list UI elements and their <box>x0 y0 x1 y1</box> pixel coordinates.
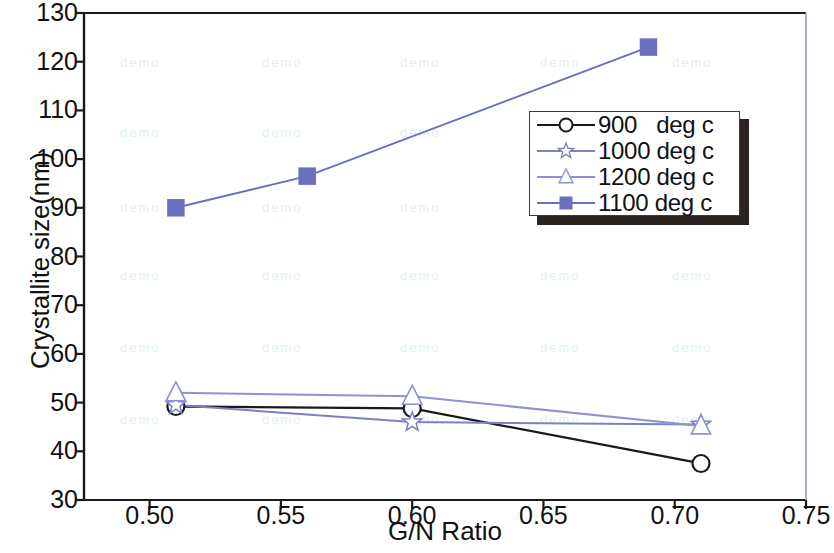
legend-label: 900 deg c <box>598 113 713 137</box>
legend-marker-icon <box>535 165 597 189</box>
series-line <box>176 393 701 426</box>
legend-label: 1200 deg c <box>598 165 714 189</box>
legend-item[interactable]: 900 deg c <box>530 112 739 138</box>
legend-item[interactable]: 1100 deg c <box>530 190 739 216</box>
legend-item[interactable]: 1000 deg c <box>530 138 739 164</box>
series-line <box>176 407 701 464</box>
y-tick-label: 30 <box>18 487 78 512</box>
y-tick-label: 120 <box>18 49 78 74</box>
y-tick-label: 40 <box>18 438 78 463</box>
data-marker-triangle <box>403 385 422 404</box>
legend: 900 deg c1000 deg c1200 deg c1100 deg c <box>529 111 740 216</box>
legend-item[interactable]: 1200 deg c <box>530 164 739 190</box>
data-marker-circle <box>692 455 709 472</box>
data-marker-square <box>640 39 656 55</box>
legend-label: 1000 deg c <box>598 139 714 163</box>
legend-marker-icon <box>535 113 597 137</box>
legend-label: 1100 deg c <box>598 191 712 215</box>
data-marker-triangle <box>166 382 185 401</box>
data-marker-square <box>299 168 315 184</box>
x-axis-title: G/N Ratio <box>84 516 806 547</box>
legend-marker-icon <box>535 191 597 215</box>
data-marker-square <box>168 200 184 216</box>
legend-marker-icon <box>535 139 597 163</box>
y-axis-title: Crystallite size(nm) <box>25 96 56 426</box>
y-tick-label: 130 <box>18 0 78 25</box>
